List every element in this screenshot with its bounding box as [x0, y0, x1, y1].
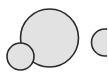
small-circle [7, 43, 34, 70]
partial-circle-right [92, 29, 108, 56]
circles-diagram [0, 0, 107, 77]
